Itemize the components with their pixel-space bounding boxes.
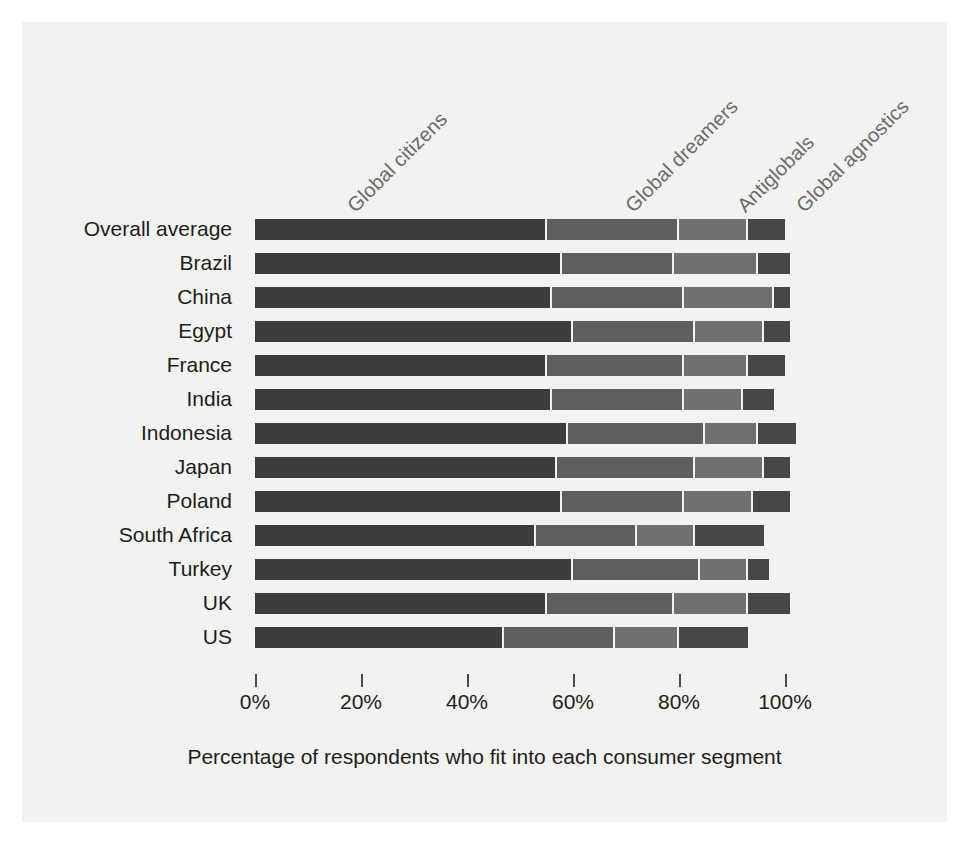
chart-row: Overall average	[22, 212, 947, 246]
bar-segment-global-citizens	[255, 525, 536, 546]
bar-segment-global-citizens	[255, 559, 573, 580]
category-label: France	[22, 348, 232, 382]
category-label: China	[22, 280, 232, 314]
series-label-global-citizens: Global citizens	[342, 108, 451, 217]
bar-segment-global-dreamers	[536, 525, 637, 546]
bar-segment-antiglobals	[700, 559, 748, 580]
bar-segment-global-citizens	[255, 593, 547, 614]
category-label: Indonesia	[22, 416, 232, 450]
bar-segment-global-citizens	[255, 457, 557, 478]
stacked-bar	[255, 423, 796, 444]
category-label: Poland	[22, 484, 232, 518]
bar-area	[255, 620, 947, 654]
series-label-global-dreamers: Global dreamers	[620, 95, 742, 217]
bar-segment-global-agnostics	[758, 423, 795, 444]
chart-row: Japan	[22, 450, 947, 484]
bar-segment-global-citizens	[255, 627, 504, 648]
category-label: Japan	[22, 450, 232, 484]
bar-segment-global-dreamers	[552, 287, 685, 308]
x-axis: 0%20%40%60%80%100%	[255, 674, 815, 734]
x-tick-label: 80%	[658, 690, 700, 714]
bar-segment-global-dreamers	[573, 321, 695, 342]
x-axis-title: Percentage of respondents who fit into e…	[22, 745, 947, 769]
x-tick-label: 40%	[446, 690, 488, 714]
category-label: South Africa	[22, 518, 232, 552]
bar-area	[255, 518, 947, 552]
bar-segment-global-agnostics	[695, 525, 764, 546]
x-tick-label: 100%	[758, 690, 812, 714]
x-tick-label: 20%	[340, 690, 382, 714]
chart-row: India	[22, 382, 947, 416]
stacked-bar	[255, 355, 785, 376]
bar-segment-global-citizens	[255, 253, 562, 274]
stacked-bar	[255, 525, 764, 546]
category-label: Turkey	[22, 552, 232, 586]
bar-segment-global-citizens	[255, 491, 562, 512]
stacked-bar	[255, 287, 790, 308]
bar-segment-global-agnostics	[679, 627, 748, 648]
x-tick-mark	[785, 674, 787, 687]
x-tick-mark	[255, 674, 257, 687]
bar-area	[255, 314, 947, 348]
category-label: US	[22, 620, 232, 654]
category-label: India	[22, 382, 232, 416]
bar-segment-antiglobals	[674, 253, 759, 274]
bar-segment-global-citizens	[255, 423, 568, 444]
chart-figure: Global citizensGlobal dreamersAntiglobal…	[22, 22, 947, 822]
chart-row: UK	[22, 586, 947, 620]
chart-row: Poland	[22, 484, 947, 518]
x-tick-mark	[467, 674, 469, 687]
bar-segment-global-dreamers	[547, 219, 680, 240]
chart-row: US	[22, 620, 947, 654]
bar-segment-antiglobals	[695, 321, 764, 342]
category-label: UK	[22, 586, 232, 620]
bar-area	[255, 450, 947, 484]
bar-segment-global-citizens	[255, 321, 573, 342]
bar-segment-antiglobals	[695, 457, 764, 478]
x-tick-label: 0%	[240, 690, 270, 714]
stacked-bar	[255, 491, 790, 512]
chart-row: France	[22, 348, 947, 382]
bar-segment-global-dreamers	[568, 423, 706, 444]
x-tick-mark	[573, 674, 575, 687]
bar-segment-global-agnostics	[764, 321, 791, 342]
chart-row: Egypt	[22, 314, 947, 348]
bar-area	[255, 484, 947, 518]
chart-row: Brazil	[22, 246, 947, 280]
stacked-bar	[255, 389, 774, 410]
x-tick-label: 60%	[552, 690, 594, 714]
bar-segment-global-agnostics	[764, 457, 791, 478]
bar-area	[255, 382, 947, 416]
bar-segment-global-agnostics	[743, 389, 775, 410]
plot-area: Overall averageBrazilChinaEgyptFranceInd…	[22, 212, 947, 654]
bar-segment-antiglobals	[674, 593, 748, 614]
bar-segment-global-dreamers	[562, 491, 684, 512]
bar-segment-antiglobals	[637, 525, 695, 546]
bar-segment-global-dreamers	[557, 457, 695, 478]
category-label: Egypt	[22, 314, 232, 348]
bar-area	[255, 280, 947, 314]
bar-segment-global-citizens	[255, 355, 547, 376]
bar-segment-global-dreamers	[552, 389, 685, 410]
chart-row: China	[22, 280, 947, 314]
bar-segment-global-agnostics	[753, 491, 790, 512]
bar-segment-global-dreamers	[573, 559, 700, 580]
stacked-bar	[255, 593, 790, 614]
bar-segment-antiglobals	[684, 389, 742, 410]
chart-row: South Africa	[22, 518, 947, 552]
stacked-bar	[255, 559, 769, 580]
bar-segment-antiglobals	[684, 287, 774, 308]
bar-segment-global-dreamers	[547, 593, 674, 614]
bar-segment-antiglobals	[705, 423, 758, 444]
stacked-bar	[255, 321, 790, 342]
x-tick-mark	[361, 674, 363, 687]
category-label: Overall average	[22, 212, 232, 246]
bar-segment-global-agnostics	[748, 593, 790, 614]
bar-segment-antiglobals	[684, 491, 753, 512]
bar-area	[255, 348, 947, 382]
bar-area	[255, 246, 947, 280]
stacked-bar	[255, 253, 790, 274]
x-tick-mark	[679, 674, 681, 687]
bar-segment-global-agnostics	[748, 219, 785, 240]
stacked-bar	[255, 457, 790, 478]
